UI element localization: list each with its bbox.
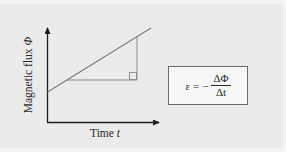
right-angle-marker (130, 73, 137, 80)
faraday-law-formula: ε = − ΔΦ Δt (168, 66, 248, 105)
y-axis-label: Magnetic flux Φ (22, 37, 34, 113)
fraction: ΔΦ Δt (211, 72, 230, 99)
x-axis-label-text: Time (90, 127, 114, 139)
emf-symbol: ε (185, 80, 190, 92)
flux-line (48, 28, 152, 92)
y-axis-label-text: Magnetic flux (22, 48, 34, 113)
minus-sign: − (202, 80, 208, 92)
equals-sign: = (193, 80, 199, 92)
fraction-numerator: ΔΦ (211, 72, 230, 86)
flux-symbol: Φ (22, 37, 34, 46)
time-symbol: t (117, 127, 120, 139)
fraction-denominator: Δt (214, 86, 228, 99)
x-axis-label: Time t (90, 127, 120, 139)
